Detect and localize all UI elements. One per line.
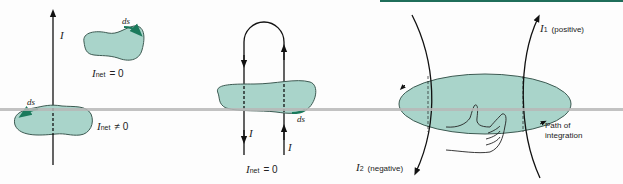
net-subscript: net <box>96 71 106 78</box>
ds-label-b: ds <box>297 115 305 124</box>
inet-zero-label-a: Inet = 0 <box>92 64 124 80</box>
i2-note: (negative) <box>368 164 404 173</box>
i1-subscript: 1 <box>544 26 548 33</box>
inet-zero-label-b: Inet = 0 <box>246 160 278 176</box>
relation: = 0 <box>109 68 123 79</box>
ds-label-lower: ds <box>27 98 35 107</box>
path-label-line1: Path of <box>545 121 582 131</box>
i2-label: I2 (negative) <box>356 158 403 174</box>
ds-label-upper: ds <box>122 17 130 26</box>
diagram-graphics <box>0 0 623 184</box>
relation: = 0 <box>263 164 277 175</box>
path-label-line2: integration <box>545 131 582 141</box>
upper-loop <box>84 26 144 60</box>
ds-text: ds <box>27 97 35 107</box>
ds-text: ds <box>297 114 305 124</box>
amperes-law-diagram: I ds Inet = 0 ds Inet ≠ 0 I I ds Inet = … <box>0 0 623 184</box>
current-label-a: I <box>60 30 64 41</box>
i2-subscript: 2 <box>360 165 364 172</box>
current-right-label-b: I <box>288 142 292 153</box>
current-left-label-b: I <box>249 128 253 139</box>
top-accent-bar <box>380 0 623 2</box>
path-of-integration-label: Path of integration <box>545 121 582 141</box>
horizon-line <box>0 108 623 111</box>
inet-nonzero-label-a: Inet ≠ 0 <box>97 117 128 133</box>
relation: ≠ 0 <box>114 121 128 132</box>
net-subscript: net <box>101 124 111 131</box>
i1-note: (positive) <box>552 25 584 34</box>
net-subscript: net <box>250 167 260 174</box>
i1-label: I1 (positive) <box>540 19 584 35</box>
ds-text: ds <box>122 16 130 26</box>
